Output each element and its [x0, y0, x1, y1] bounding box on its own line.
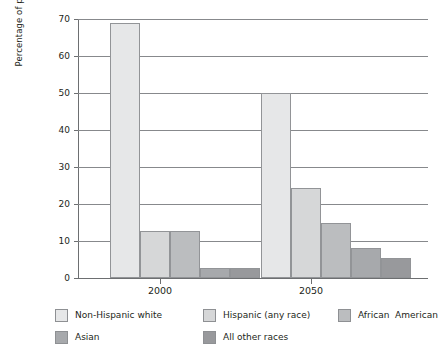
y-tick-label-50: 50 — [40, 89, 70, 98]
bar-2000-asian — [200, 268, 230, 278]
bar-2050-asian — [351, 248, 381, 278]
y-tick-label-30: 30 — [40, 163, 70, 172]
y-axis-tick-labels: 70 60 50 40 30 20 10 0 — [34, 0, 70, 300]
x-tick-mark-2000 — [160, 279, 161, 284]
legend-label-all-other-races: All other races — [223, 333, 288, 342]
bar-2050-african-american — [321, 223, 351, 278]
bar-chart: Percentage of population 70 60 50 40 30 … — [0, 0, 447, 363]
y-tick-label-70: 70 — [40, 15, 70, 24]
bar-2000-non-hispanic-white — [110, 23, 140, 278]
y-tick-label-20: 20 — [40, 200, 70, 209]
legend-item-non-hispanic-white: Non-Hispanic white — [55, 306, 162, 325]
y-tick-label-10: 10 — [40, 237, 70, 246]
plot-area — [78, 19, 428, 278]
bar-2050-all-other-races — [381, 258, 411, 278]
bar-2000-hispanic-any-race — [140, 231, 170, 278]
y-tick-label-40: 40 — [40, 126, 70, 135]
legend-label-hispanic-any-race: Hispanic (any race) — [223, 311, 310, 320]
y-tick-label-60: 60 — [40, 52, 70, 61]
legend-label-non-hispanic-white: Non-Hispanic white — [75, 311, 162, 320]
legend-swatch-icon-asian — [55, 331, 68, 344]
legend-item-asian: Asian — [55, 328, 100, 347]
legend-item-african-american: African American — [338, 306, 438, 325]
legend-item-all-other-races: All other races — [203, 328, 288, 347]
legend-label-african-american: African American — [358, 311, 438, 320]
legend-swatch-icon-all-other-races — [203, 331, 216, 344]
legend-swatch-icon-non-hispanic-white — [55, 309, 68, 322]
legend-swatch-icon-hispanic-any-race — [203, 309, 216, 322]
x-tick-label-2050: 2050 — [281, 285, 341, 296]
y-tick-label-0: 0 — [40, 274, 70, 283]
x-tick-label-2000: 2000 — [130, 285, 190, 296]
x-tick-mark-2050 — [311, 279, 312, 284]
bar-2000-all-other-races — [230, 268, 260, 278]
gridline-70 — [78, 19, 428, 20]
bar-2050-non-hispanic-white — [261, 93, 291, 278]
bar-2000-african-american — [170, 231, 200, 278]
legend-item-hispanic-any-race: Hispanic (any race) — [203, 306, 310, 325]
y-axis-title: Percentage of population — [14, 0, 24, 92]
bar-2050-hispanic-any-race — [291, 188, 321, 278]
gridline-baseline-0 — [78, 278, 428, 279]
legend-swatch-icon-african-american — [338, 309, 351, 322]
legend-label-asian: Asian — [75, 333, 100, 342]
